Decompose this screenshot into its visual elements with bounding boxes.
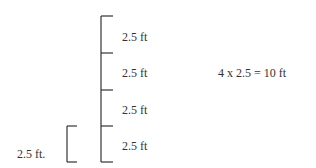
segment-label: 2.5 ft: [122, 103, 147, 117]
reference-label: 2.5 ft.: [17, 147, 45, 161]
segment-label: 2.5 ft: [122, 66, 147, 80]
segment-label: 2.5 ft: [122, 30, 147, 44]
segment-label: 2.5 ft: [122, 139, 147, 153]
bracket-lines: [0, 0, 316, 168]
equation-label: 4 x 2.5 = 10 ft: [218, 66, 286, 80]
